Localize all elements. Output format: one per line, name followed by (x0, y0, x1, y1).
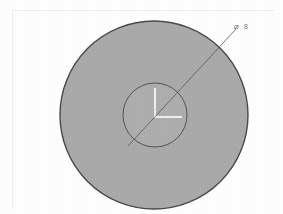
technical-drawing-canvas: ⌀ 8 (0, 0, 283, 214)
diameter-symbol: ⌀ (234, 22, 239, 31)
drawing-page: ⌀ 8 (0, 0, 283, 214)
diameter-value: 8 (244, 23, 248, 30)
